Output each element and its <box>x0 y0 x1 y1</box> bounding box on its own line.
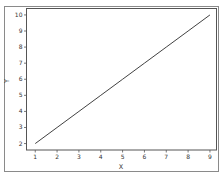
y-tick-label: 4 <box>19 107 23 114</box>
x-tick-label: 4 <box>99 153 103 160</box>
y-axis-ticks: 2345678910 <box>15 11 27 147</box>
x-tick-label: 6 <box>143 153 147 160</box>
x-tick-label: 5 <box>121 153 125 160</box>
x-tick-label: 7 <box>164 153 168 160</box>
line-chart: 123456789 2345678910 X Y <box>0 0 224 181</box>
x-tick-label: 8 <box>186 153 190 160</box>
y-tick-label: 10 <box>15 11 23 18</box>
x-axis-ticks: 123456789 <box>33 150 212 160</box>
y-tick-label: 7 <box>19 59 23 66</box>
y-tick-label: 3 <box>19 123 23 130</box>
y-axis-label: Y <box>3 79 11 84</box>
x-tick-label: 9 <box>208 153 212 160</box>
y-tick-label: 6 <box>19 75 23 82</box>
x-tick-label: 3 <box>77 153 81 160</box>
y-tick-label: 9 <box>19 27 23 34</box>
x-axis-label: X <box>119 163 124 171</box>
y-tick-label: 2 <box>19 140 23 147</box>
x-tick-label: 2 <box>55 153 59 160</box>
y-tick-label: 5 <box>19 91 23 98</box>
x-tick-label: 1 <box>33 153 37 160</box>
y-tick-label: 8 <box>19 43 23 50</box>
